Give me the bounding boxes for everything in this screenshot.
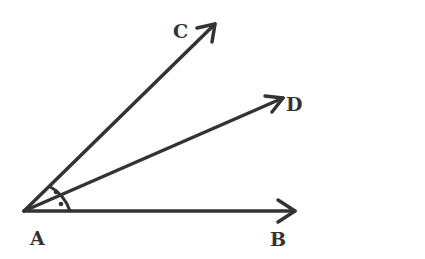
label-a: A [29, 227, 45, 249]
angle-dot-lower [59, 202, 64, 207]
angle-dot-upper [54, 190, 59, 195]
diagram-canvas: C D A B [0, 0, 425, 259]
label-b: B [270, 228, 286, 250]
ray-ac [24, 24, 215, 211]
angle-diagram: C D A B [0, 0, 425, 259]
ray-ab [24, 200, 295, 222]
ray-ad [24, 96, 283, 211]
label-d: D [286, 93, 302, 115]
label-c: C [173, 20, 188, 42]
